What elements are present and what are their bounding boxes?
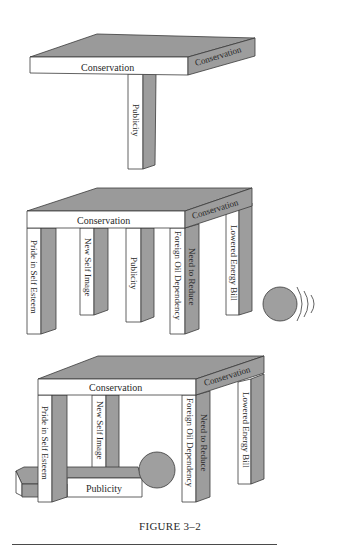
p2-leg6-label: Lowered Energy Bill: [229, 225, 239, 301]
p3-leg4-label: Foreign Oil Dependency: [185, 398, 195, 487]
p2-leg-lowered-energy-bill: Lowered Energy Bill: [226, 203, 252, 315]
p3-fallen-leg-publicity: Publicity: [16, 467, 142, 497]
p3-fallen-label: Publicity: [86, 483, 122, 494]
caption-rule: [12, 544, 277, 545]
motion-line-icon: [297, 287, 302, 321]
p3-ball-icon: [139, 452, 175, 488]
figure-diagram: Publicity Conservation Conservation Lowe…: [0, 0, 340, 549]
p3-leg-pride: Pride in Self Esteem: [38, 395, 67, 502]
p1-front-label: Conservation: [81, 62, 134, 73]
p3-front-label: Conservation: [89, 382, 142, 393]
p3-leg1-label: Pride in Self Esteem: [40, 406, 50, 480]
p2-leg4-label: Foreign Oil Dependency: [173, 231, 183, 320]
p3-leg-new-self-image: New Self Image: [92, 395, 119, 472]
panel-2-table: Lowered Energy Bill Pride in Self Esteem…: [27, 188, 314, 334]
motion-line-icon: [304, 291, 308, 317]
p2-rolling-ball: [263, 287, 314, 321]
p2-leg-new-self-image: New Self Image: [80, 228, 108, 315]
p2-front-label: Conservation: [77, 215, 130, 226]
p3-leg-foreign-oil: Foreign Oil Dependency Need to Reduce: [182, 391, 210, 502]
p1-leg-label: Publicity: [131, 104, 141, 137]
p2-leg1-label: Pride in Self Esteem: [29, 240, 39, 314]
p2-leg-publicity: Publicity: [126, 228, 154, 322]
p2-leg3-label: Publicity: [129, 257, 139, 290]
figure-caption: FIGURE 3–2: [0, 520, 340, 532]
ball-icon: [263, 287, 297, 321]
p3-leg6-label: Lowered Energy Bill: [241, 392, 251, 468]
p3-leg5-label: Need to Reduce: [199, 414, 209, 471]
panel-1-table: Publicity Conservation Conservation: [30, 34, 255, 169]
p2-leg-pride: Pride in Self Esteem: [27, 228, 56, 334]
p1-leg-publicity: Publicity: [128, 74, 156, 169]
p2-leg5-label: Need to Reduce: [187, 248, 197, 305]
panel-3-table: Lowered Energy Bill New Self Image Publi…: [16, 356, 264, 502]
p2-leg2-label: New Self Image: [83, 238, 93, 296]
p3-leg2-label: New Self Image: [95, 401, 105, 459]
p2-leg-foreign-oil: Foreign Oil Dependency Need to Reduce: [170, 224, 199, 334]
p3-leg-lowered-energy-bill: Lowered Energy Bill: [238, 374, 264, 484]
motion-line-icon: [311, 295, 314, 313]
